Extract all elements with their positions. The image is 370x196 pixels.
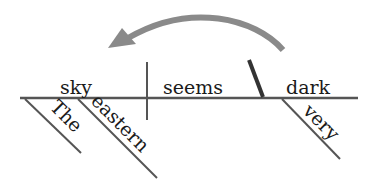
word-modifier-eastern: eastern (87, 89, 154, 156)
predicate-divider (249, 60, 263, 97)
word-modifier-very: very (298, 99, 344, 145)
sentence-diagram: sky seems dark The eastern very (0, 0, 370, 196)
word-predicate-adjective: dark (286, 76, 331, 98)
diagram-svg: sky seems dark The eastern very (0, 0, 370, 196)
word-verb: seems (163, 76, 223, 98)
word-subject: sky (60, 76, 92, 98)
modifies-arrow (108, 17, 283, 50)
